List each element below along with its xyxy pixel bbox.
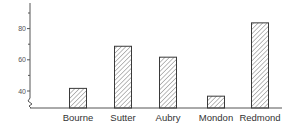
bar-mondon xyxy=(208,96,225,108)
bar-bourne xyxy=(70,88,87,108)
y-tick-label: 80 xyxy=(18,25,26,32)
category-label-bourne: Bourne xyxy=(63,112,94,123)
bar-sutter xyxy=(115,46,132,108)
y-tick-label: 60 xyxy=(18,56,26,63)
bar-chart: 406080 BourneSutterAubryMondonRedmond xyxy=(0,0,297,124)
category-label-mondon: Mondon xyxy=(199,112,233,123)
y-tick-label: 40 xyxy=(18,88,26,95)
bar-aubry xyxy=(160,57,177,108)
bar-redmond xyxy=(252,23,269,108)
category-label-redmond: Redmond xyxy=(239,112,280,123)
category-label-sutter: Sutter xyxy=(110,112,135,123)
y-axis: 406080 xyxy=(18,3,32,108)
category-label-aubry: Aubry xyxy=(156,112,181,123)
category-labels: BourneSutterAubryMondonRedmond xyxy=(63,112,281,123)
bars xyxy=(70,23,269,108)
axis-break-icon xyxy=(28,98,32,108)
